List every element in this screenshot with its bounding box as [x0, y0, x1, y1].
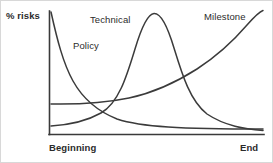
curve-milestone — [51, 11, 263, 105]
series-label-policy: Policy — [73, 41, 99, 51]
curve-policy — [51, 12, 263, 129]
x-axis-label-beginning: Beginning — [49, 143, 96, 153]
series-label-milestone: Milestone — [204, 12, 246, 22]
curve-technical — [51, 13, 263, 130]
series-label-technical: Technical — [90, 15, 131, 25]
x-axis-label-end: End — [240, 143, 258, 153]
chart-canvas — [1, 1, 273, 163]
y-axis-label: % risks — [6, 11, 40, 21]
risk-profile-chart: % risks Beginning End Policy Technical M… — [0, 0, 273, 163]
